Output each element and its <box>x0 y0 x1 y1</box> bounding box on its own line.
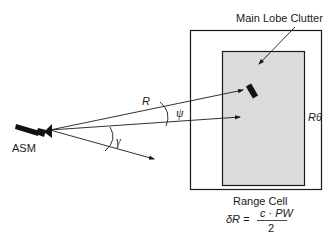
main-lobe-clutter-label: Main Lobe Clutter <box>236 12 323 24</box>
range-cell-box <box>223 52 305 186</box>
asm-label: ASM <box>12 142 36 154</box>
ray-velocity <box>50 130 154 159</box>
range-label: R <box>142 95 150 107</box>
formula-denominator: 2 <box>268 222 274 234</box>
formula-numerator: c · PW <box>260 207 295 219</box>
psi-label: ψ <box>176 106 184 120</box>
radar-geometry-diagram: Main Lobe Clutter ASM R ψ γ Rθ Range Cel… <box>0 0 332 243</box>
ray-boresight <box>50 117 240 130</box>
gamma-label: γ <box>116 134 121 148</box>
range-cell-label: Range Cell <box>233 195 287 207</box>
formula-lhs: δR = <box>226 213 250 225</box>
r-theta-label: Rθ <box>308 111 322 123</box>
asm-missile-icon <box>15 124 52 138</box>
